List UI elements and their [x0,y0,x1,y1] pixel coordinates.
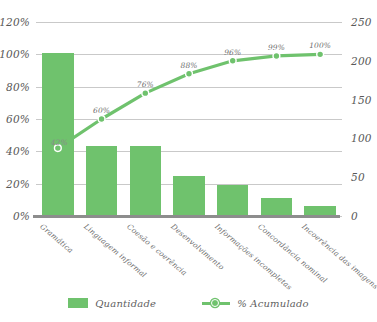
pareto-chart: 0%20%40%60%80%100%120% 050100150200250 4… [0,0,377,322]
right-axis: 050100150200250 [344,0,377,232]
legend-label-quantidade: Quantidade [95,298,156,309]
bar-swatch-icon [68,298,88,308]
point-label-0: 42% [51,138,68,147]
line-swatch-icon [202,298,230,308]
left-axis-tick-label: 40% [6,145,34,157]
bar-slot [80,22,124,216]
left-axis-tick-label: 80% [6,81,34,93]
right-axis-tick-label: 0 [344,210,358,222]
bar-slot [123,22,167,216]
category-label-0: Gramática [38,222,75,255]
category-axis: GramáticaLinguagem informalCoesão e coer… [36,222,342,284]
right-axis-tick-label: 100 [344,132,372,144]
point-label-2: 76% [137,80,154,89]
left-axis: 0%20%40%60%80%100%120% [0,0,34,232]
category-label-4: Informações incompletas [213,222,294,292]
bar-5[interactable] [261,198,292,216]
bar-slot [36,22,80,216]
bar-0[interactable] [42,53,73,216]
point-label-4: 96% [224,48,241,57]
left-axis-tick-label: 120% [0,16,34,28]
right-axis-tick-label: 250 [344,16,372,28]
legend-label-acumulado: % Acumulado [237,298,309,309]
legend-item-acumulado[interactable]: % Acumulado [202,298,309,309]
plot-area: 42%60%76%88%96%99%100% [36,22,342,216]
chart-legend: Quantidade % Acumulado [0,292,377,314]
point-label-3: 88% [181,61,198,70]
point-label-1: 60% [93,106,110,115]
left-axis-tick-label: 20% [6,178,34,190]
category-axis-line [33,215,340,218]
left-axis-tick-label: 100% [0,48,34,60]
point-label-5: 99% [268,43,285,52]
bar-slot [167,22,211,216]
left-axis-tick-label: 0% [13,210,34,222]
right-axis-tick-label: 150 [344,94,372,106]
bar-3[interactable] [173,176,204,216]
bar-4[interactable] [217,185,248,216]
right-axis-tick-label: 50 [344,171,365,183]
bar-2[interactable] [130,146,161,216]
legend-item-quantidade[interactable]: Quantidade [68,298,156,309]
bar-series [36,22,342,216]
bar-slot [298,22,342,216]
right-axis-tick-label: 200 [344,55,372,67]
left-axis-tick-label: 60% [6,113,34,125]
category-label-6: Incoerência das imagens [300,222,377,291]
point-label-6: 100% [309,41,331,50]
bar-1[interactable] [86,146,117,216]
